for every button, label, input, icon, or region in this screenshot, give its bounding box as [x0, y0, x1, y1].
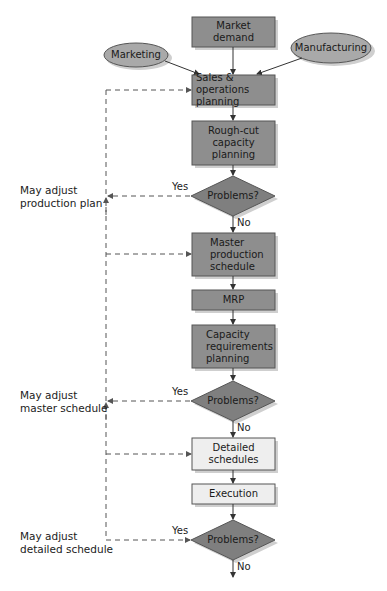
note-adjust-master-schedule: May adjust master schedule	[20, 389, 107, 415]
decision2-yes: Yes	[172, 386, 188, 398]
decision1-yes: Yes	[172, 181, 188, 193]
detailed-label: Detailed schedules	[192, 438, 275, 470]
market-demand-label: Market demand	[192, 17, 275, 47]
decision3-label: Problems?	[191, 530, 275, 550]
decision3-yes: Yes	[172, 525, 188, 537]
decision1-no: No	[237, 217, 251, 229]
note-adjust-detailed-schedule: May adjust detailed schedule	[20, 530, 113, 556]
marketing-label: Marketing	[104, 43, 168, 67]
decision3-no: No	[237, 561, 251, 573]
manufacturing-label: Manufacturing	[291, 33, 371, 63]
mps-label: Master production schedule	[192, 233, 275, 276]
mrp-label: MRP	[192, 290, 275, 310]
crp-label: Capacity requirements planning	[192, 325, 275, 368]
note-adjust-production-plan: May adjust production plan	[20, 184, 102, 210]
execution-label: Execution	[192, 484, 275, 504]
rough-cut-label: Rough-cut capacity planning	[192, 121, 275, 165]
decision1-label: Problems?	[191, 186, 275, 206]
decision2-label: Problems?	[191, 391, 275, 411]
decision2-no: No	[237, 422, 251, 434]
sop-label: Sales & operations planning	[192, 75, 275, 105]
